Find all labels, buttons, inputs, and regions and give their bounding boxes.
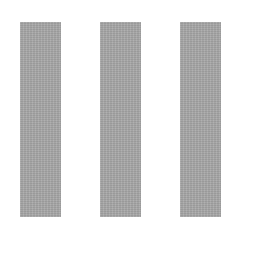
gray-bar-3 xyxy=(180,22,221,217)
gray-bar-2 xyxy=(100,22,141,217)
gray-bar-1 xyxy=(20,22,61,217)
canvas xyxy=(0,0,260,271)
